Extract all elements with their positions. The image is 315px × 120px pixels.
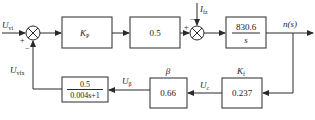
disturbance-label: Ifz [199,4,208,15]
sum2-minus-sign: − [190,15,195,24]
filter-denominator: 0.004s+1 [70,91,100,100]
beta-label: 0.66 [160,88,176,98]
kf-label: 0.237 [232,88,253,98]
sum1-minus-sign: − [25,44,30,53]
filter-numerator: 0.5 [80,80,90,89]
integrator-numerator: 830.6 [236,22,257,32]
gain-label: 0.5 [149,28,161,38]
sum2-plus-sign: + [184,23,189,32]
beta-title: β [165,66,171,76]
feedback-tap-line [263,33,293,93]
block-diagram: Uvi + − Uvfx KP 0.5 + − Ifz 830.6 s n(s)… [0,0,315,120]
input-label: Uvi [2,20,14,31]
summing-junction-2 [190,26,204,40]
feedback-label: Uvfx [10,65,25,76]
output-label: n(s) [283,19,297,29]
uc-label: Uc [200,80,210,91]
integrator-denominator: s [244,35,248,45]
u-beta-label: Uβ [122,76,132,87]
summing-junction-1 [26,26,40,40]
kf-title: Kf [236,66,245,77]
feedback-line [33,41,62,89]
